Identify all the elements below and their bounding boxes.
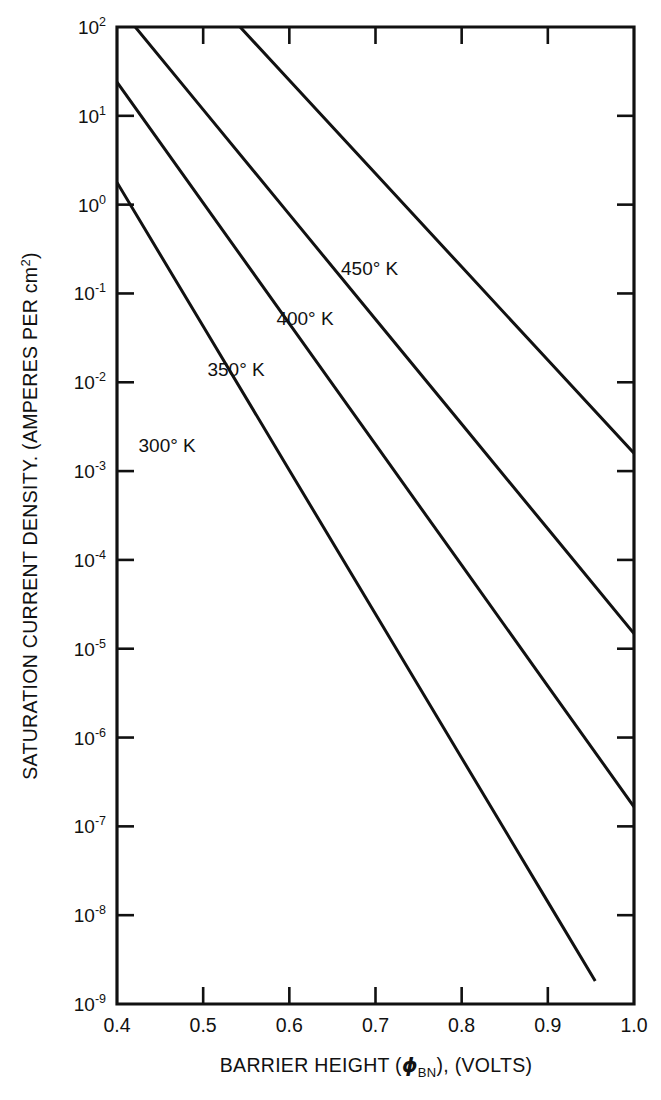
x-axis-title-prefix: BARRIER HEIGHT (: [220, 1054, 402, 1076]
x-tick-label-1: 0.5: [190, 1014, 217, 1036]
y-axis-title: SATURATION CURRENT DENSITY. (AMPERES PER…: [18, 252, 41, 779]
y-axis-title-superscript: 2: [18, 259, 33, 267]
x-tick-label-3: 0.7: [362, 1014, 389, 1036]
x-tick-label-4: 0.8: [448, 1014, 475, 1036]
x-axis-title-suffix: ), (VOLTS): [436, 1054, 532, 1076]
saturation-current-density-chart: 10210110010-110-210-310-410-510-610-710-…: [0, 0, 661, 1100]
x-tick-label-6: 1.0: [620, 1014, 647, 1036]
x-tick-label-0: 0.4: [103, 1014, 130, 1036]
figure-container: 10210110010-110-210-310-410-510-610-710-…: [0, 0, 661, 1100]
phi-symbol: ϕ: [402, 1054, 418, 1077]
curve-label-300K: 300° K: [139, 435, 197, 456]
svg-text:SATURATION CURRENT DENSITY. (A: SATURATION CURRENT DENSITY. (AMPERES PER…: [18, 252, 41, 779]
y-axis-title-suffix: ): [19, 252, 41, 259]
curve-label-350K: 350° K: [207, 359, 265, 380]
y-axis-title-prefix: SATURATION CURRENT DENSITY. (AMPERES PER…: [19, 267, 41, 780]
curve-label-450K: 450° K: [341, 258, 399, 279]
x-tick-label-5: 0.9: [534, 1014, 561, 1036]
x-axis-title-subscript: BN: [418, 1065, 437, 1080]
x-tick-label-2: 0.6: [276, 1014, 303, 1036]
curve-label-400K: 400° K: [276, 308, 334, 329]
